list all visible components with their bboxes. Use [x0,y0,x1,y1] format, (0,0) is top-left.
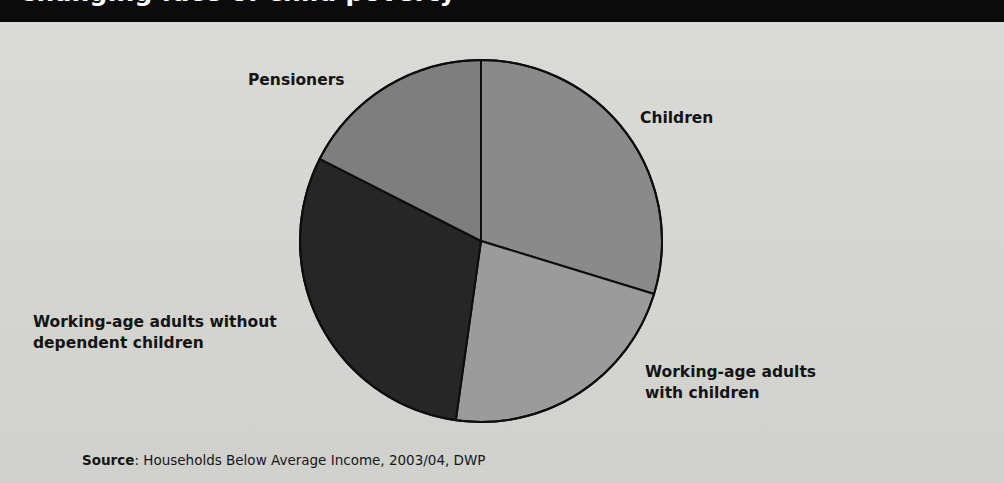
slice-label-working-age-with-children: Working-age adults with children [645,362,816,404]
source-label: Source [82,452,134,468]
source-separator: : [134,452,143,468]
source-text: Households Below Average Income, 2003/04… [143,452,485,468]
pie-chart [298,58,664,424]
pie-slice-group [300,60,662,422]
slice-label-working-age-without-dependent-children: Working-age adults without dependent chi… [33,312,277,354]
chart-plate: Pensioners Children Working-age adults w… [0,22,1004,483]
source-note: Source: Households Below Average Income,… [82,452,486,468]
page-title: Changing face of child poverty [18,0,456,7]
chart-page: Changing face of child poverty Pensioner… [0,0,1004,483]
pie-chart-svg [298,58,664,424]
title-band: Changing face of child poverty [0,0,1004,22]
slice-label-children: Children [640,108,713,129]
slice-label-pensioners: Pensioners [248,70,345,91]
